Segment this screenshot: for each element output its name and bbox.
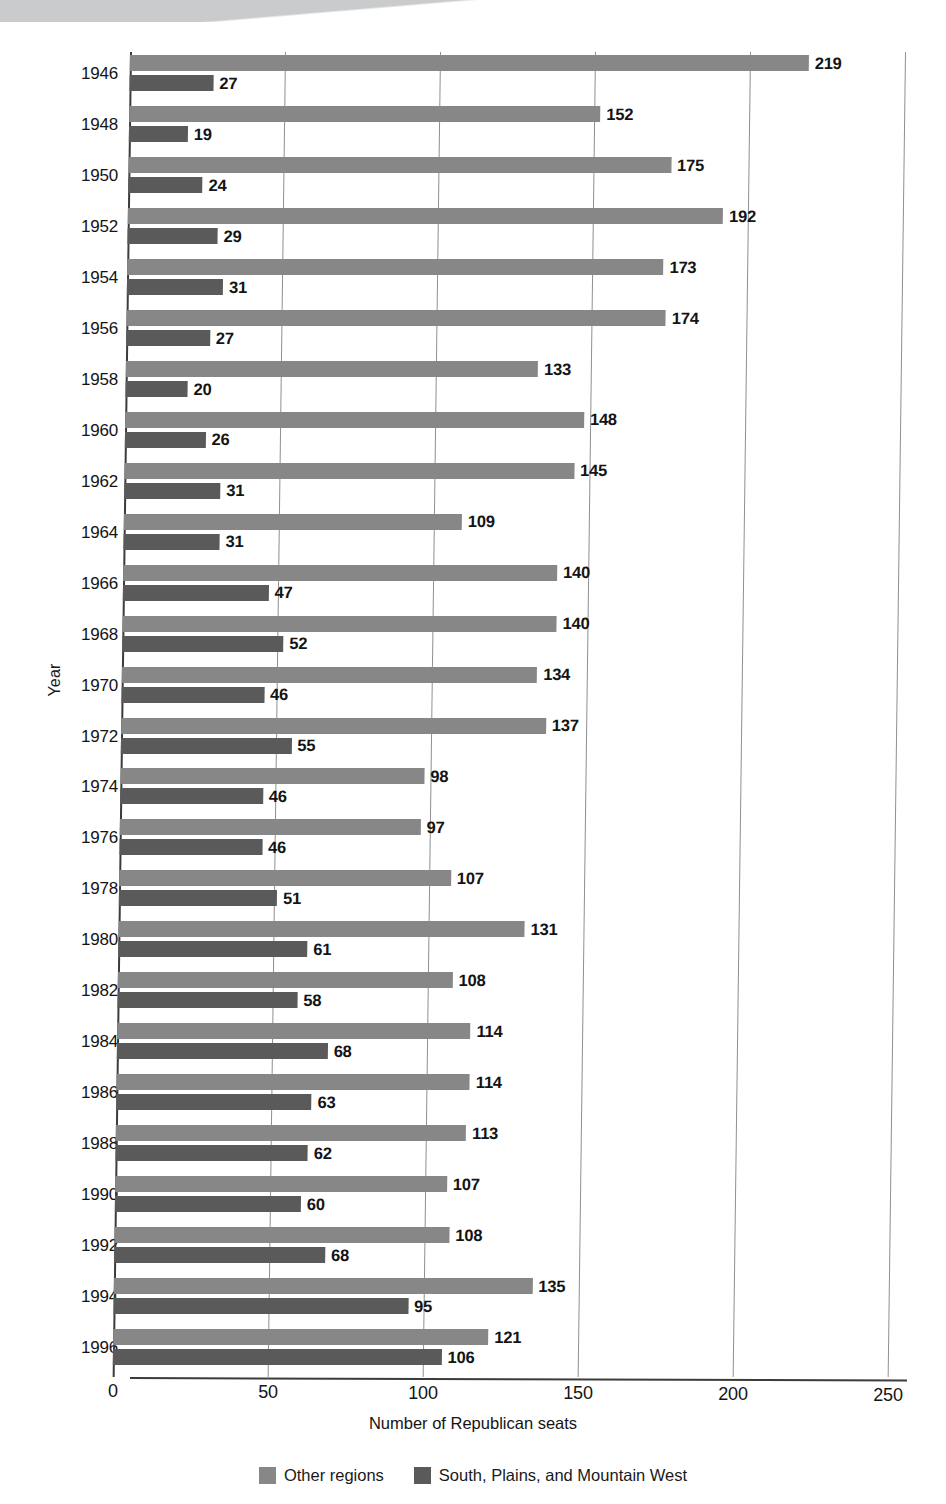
bar-rect — [129, 126, 188, 142]
bar-value-label: 20 — [193, 381, 211, 398]
bar-rect — [127, 259, 664, 275]
bar-value-label: 131 — [531, 921, 558, 938]
bar-value-label: 46 — [269, 788, 287, 805]
bar-rect — [119, 890, 277, 906]
bar-value-label: 133 — [544, 361, 571, 378]
bar-1976-south-plains-mountain-west: 46 — [119, 839, 286, 855]
bar-rect — [128, 177, 203, 193]
bar-rect — [125, 412, 584, 428]
bar-group-1976: 9746 — [119, 816, 895, 860]
x-tick-250: 250 — [853, 1385, 923, 1406]
bar-1964-other-regions: 109 — [124, 514, 495, 530]
bar-rect — [122, 636, 283, 652]
bar-1974-other-regions: 98 — [120, 768, 448, 784]
year-label-1946: 1946 — [58, 64, 118, 84]
bar-value-label: 107 — [453, 1176, 480, 1193]
bar-value-label: 140 — [563, 564, 590, 581]
bar-1980-other-regions: 131 — [118, 921, 557, 937]
bar-group-1960: 14826 — [125, 409, 901, 453]
bar-rect — [117, 992, 297, 1008]
x-axis-title: Number of Republican seats — [0, 1414, 946, 1433]
bar-value-label: 145 — [580, 462, 607, 479]
bar-rect — [121, 718, 546, 734]
legend-item-south-plains-mountain-west: South, Plains, and Mountain West — [414, 1466, 687, 1485]
bar-rect — [123, 565, 557, 581]
bar-rect — [125, 432, 206, 448]
bar-rect — [116, 1094, 312, 1110]
bar-1988-south-plains-mountain-west: 62 — [115, 1145, 331, 1161]
bar-1946-south-plains-mountain-west: 27 — [129, 75, 237, 91]
bar-1994-other-regions: 135 — [114, 1278, 566, 1294]
bar-rect — [120, 788, 263, 804]
bar-1980-south-plains-mountain-west: 61 — [118, 941, 331, 957]
bar-value-label: 114 — [476, 1023, 502, 1040]
bar-1962-other-regions: 145 — [124, 463, 607, 479]
republican-seats-bar-chart: Year 19461948195019521954195619581960196… — [0, 0, 946, 1504]
year-label-1984: 1984 — [58, 1032, 118, 1052]
bar-value-label: 52 — [289, 635, 307, 652]
year-label-1996: 1996 — [58, 1338, 118, 1358]
bar-rows: 2192715219175241922917331174271332014826… — [113, 52, 905, 1377]
bar-1956-south-plains-mountain-west: 27 — [126, 330, 234, 346]
year-label-1970: 1970 — [58, 676, 118, 696]
bar-rect — [118, 921, 524, 937]
bar-group-1982: 10858 — [117, 969, 893, 1013]
bar-value-label: 60 — [307, 1196, 325, 1213]
bar-1990-other-regions: 107 — [115, 1176, 480, 1192]
bar-1988-other-regions: 113 — [116, 1125, 499, 1141]
bar-value-label: 31 — [226, 482, 244, 499]
bar-1984-south-plains-mountain-west: 68 — [117, 1043, 352, 1059]
year-label-1980: 1980 — [58, 930, 118, 950]
bar-value-label: 46 — [270, 686, 288, 703]
bar-group-1978: 10751 — [119, 867, 895, 911]
year-label-1968: 1968 — [58, 625, 118, 645]
bar-value-label: 175 — [677, 157, 704, 174]
bar-1962-south-plains-mountain-west: 31 — [124, 483, 244, 499]
year-label-1976: 1976 — [58, 828, 118, 848]
bar-1948-other-regions: 152 — [129, 106, 633, 122]
year-label-1972: 1972 — [58, 727, 118, 747]
bar-rect — [126, 310, 666, 326]
x-axis-line — [130, 1377, 907, 1381]
bar-value-label: 113 — [472, 1125, 498, 1142]
bar-rect — [114, 1278, 533, 1294]
bar-value-label: 27 — [219, 75, 237, 92]
bar-value-label: 97 — [426, 819, 444, 836]
bar-1954-south-plains-mountain-west: 31 — [127, 279, 247, 295]
bar-group-1954: 17331 — [127, 256, 903, 300]
year-label-1960: 1960 — [58, 421, 118, 441]
bar-1950-south-plains-mountain-west: 24 — [128, 177, 227, 193]
bar-rect — [121, 687, 264, 703]
bar-group-1990: 10760 — [115, 1173, 891, 1217]
bar-rect — [120, 768, 424, 784]
bar-group-1996: 121106 — [113, 1326, 889, 1370]
bar-value-label: 135 — [538, 1278, 565, 1295]
year-label-1964: 1964 — [58, 523, 118, 543]
bar-rect — [114, 1227, 449, 1243]
bar-value-label: 98 — [430, 768, 448, 785]
bar-value-label: 68 — [331, 1247, 349, 1264]
bar-value-label: 173 — [669, 259, 696, 276]
bar-1952-other-regions: 192 — [128, 208, 756, 224]
bar-group-1948: 15219 — [129, 103, 905, 147]
bar-value-label: 121 — [494, 1329, 521, 1346]
bar-group-1992: 10868 — [114, 1224, 890, 1268]
bar-value-label: 47 — [275, 584, 293, 601]
bar-1986-other-regions: 114 — [116, 1074, 502, 1090]
bar-value-label: 192 — [729, 208, 756, 225]
bar-rect — [116, 1125, 467, 1141]
bar-value-label: 55 — [297, 737, 315, 754]
bar-1958-south-plains-mountain-west: 20 — [125, 381, 211, 397]
bar-group-1986: 11463 — [116, 1071, 892, 1115]
bar-1956-other-regions: 174 — [126, 310, 699, 326]
legend-item-other-regions: Other regions — [259, 1466, 384, 1485]
x-tick-150: 150 — [543, 1383, 613, 1404]
bar-rect — [126, 330, 210, 346]
bar-rect — [113, 1329, 488, 1345]
bar-rect — [123, 534, 219, 550]
bar-1978-other-regions: 107 — [119, 870, 484, 886]
bar-rect — [128, 157, 671, 173]
bar-1996-south-plains-mountain-west: 106 — [113, 1349, 475, 1365]
bar-1990-south-plains-mountain-west: 60 — [115, 1196, 325, 1212]
x-tick-200: 200 — [698, 1384, 768, 1405]
